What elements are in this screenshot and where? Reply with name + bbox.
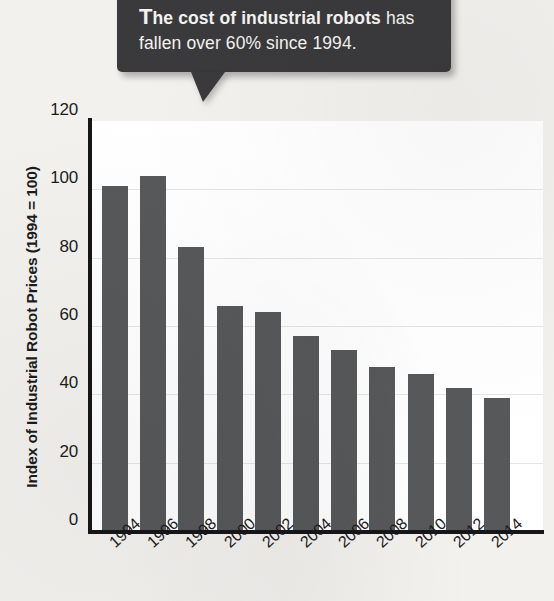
callout-text: The cost of industrial robots has fallen… [139, 6, 429, 56]
bar-2008 [369, 367, 395, 531]
y-tick-label-100: 100 [34, 168, 78, 188]
x-axis-tick-labels: 1994199619982000200220042006200820102012… [88, 538, 554, 598]
callout-tail-icon [191, 72, 225, 102]
callout-box: The cost of industrial robots has fallen… [117, 0, 451, 72]
callout: The cost of industrial robots has fallen… [117, 0, 451, 72]
y-axis-tick-labels: 120 100 80 60 40 20 0 [34, 110, 78, 540]
callout-dropcap: T [139, 4, 153, 29]
bar-2014 [484, 398, 510, 531]
bar-2012 [446, 388, 472, 532]
y-tick-label-40: 40 [34, 373, 78, 393]
bar-1996 [140, 176, 166, 531]
bar-2004 [293, 336, 319, 531]
bar-1998 [178, 247, 204, 531]
bar-series [88, 121, 543, 531]
y-axis-line [88, 118, 92, 534]
chart-figure: Index of Industrial Robot Prices (1994 =… [0, 0, 554, 601]
y-tick-label-80: 80 [34, 237, 78, 257]
bar-2002 [255, 312, 281, 531]
x-axis-line [88, 530, 544, 534]
bar-2006 [331, 350, 357, 531]
y-tick-label-120: 120 [34, 100, 78, 120]
y-tick-label-0: 0 [34, 510, 78, 530]
y-tick-label-60: 60 [34, 305, 78, 325]
bar-2000 [217, 306, 243, 532]
bar-2010 [408, 374, 434, 531]
y-tick-label-20: 20 [34, 442, 78, 462]
bar-1994 [102, 186, 128, 531]
plot-area [88, 121, 543, 531]
callout-lead-text: he cost of industrial robots [153, 8, 381, 28]
bar-chart: Index of Industrial Robot Prices (1994 =… [0, 0, 554, 601]
